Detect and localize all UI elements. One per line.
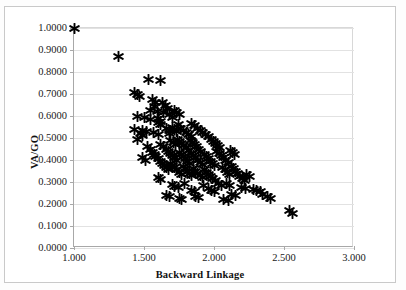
x-tick-mark [284, 246, 285, 250]
gridline-horizontal [74, 94, 354, 95]
y-tick-label: 0.1000 [38, 221, 67, 232]
gridline-horizontal [74, 204, 354, 205]
y-tick-label: 0.6000 [38, 111, 67, 122]
x-tick-mark [354, 246, 355, 250]
y-tick-mark [70, 72, 74, 73]
gridline-horizontal [74, 116, 354, 117]
y-tick-mark [70, 160, 74, 161]
chart-outer-frame: VA/GO Backward Linkage 0.00000.10000.200… [4, 6, 396, 283]
x-tick-label: 2.500 [272, 253, 296, 264]
x-tick-mark [144, 246, 145, 250]
x-tick-label: 1.500 [132, 253, 156, 264]
x-tick-mark [74, 246, 75, 250]
x-tick-label: 2.000 [202, 253, 226, 264]
y-tick-label: 0.5000 [38, 133, 67, 144]
y-tick-label: 0.4000 [38, 155, 67, 166]
x-tick-mark [214, 246, 215, 250]
chart-figure: VA/GO Backward Linkage 0.00000.10000.200… [0, 0, 406, 290]
y-tick-mark [70, 94, 74, 95]
x-axis-title: Backward Linkage [5, 269, 395, 280]
y-tick-mark [70, 116, 74, 117]
gridline-horizontal [74, 226, 354, 227]
y-tick-mark [70, 138, 74, 139]
y-tick-label: 1.0000 [38, 23, 67, 34]
y-tick-mark [70, 182, 74, 183]
gridline-horizontal [74, 28, 354, 29]
y-tick-mark [70, 204, 74, 205]
y-tick-label: 0.7000 [38, 89, 67, 100]
gridline-horizontal [74, 72, 354, 73]
y-tick-label: 0.9000 [38, 45, 67, 56]
plot-area: 0.00000.10000.20000.30000.40000.50000.60… [73, 27, 353, 247]
y-tick-label: 0.3000 [38, 177, 67, 188]
y-tick-mark [70, 50, 74, 51]
x-tick-label: 1.000 [62, 253, 86, 264]
x-tick-label: 3.000 [342, 253, 366, 264]
y-tick-label: 0.8000 [38, 67, 67, 78]
y-tick-label: 0.2000 [38, 199, 67, 210]
y-tick-mark [70, 226, 74, 227]
